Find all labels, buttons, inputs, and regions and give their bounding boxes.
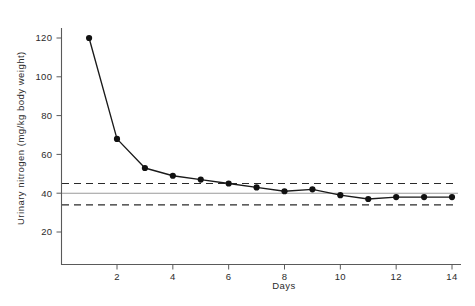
x-tick-label: 12 [390, 271, 401, 282]
chart-container: 20406080100120 2468101214 Urinary nitrog… [0, 0, 475, 306]
data-point [365, 196, 371, 202]
x-axis-ticks [117, 265, 452, 270]
series-markers [86, 35, 455, 202]
x-tick-label: 4 [170, 271, 176, 282]
y-axis-tick-labels: 20406080100120 [35, 32, 52, 237]
data-point [86, 35, 92, 41]
data-point [309, 186, 315, 192]
data-point [170, 173, 176, 179]
y-tick-label: 100 [35, 71, 52, 82]
x-tick-label: 10 [335, 271, 346, 282]
y-axis-ticks [57, 38, 62, 232]
data-point [393, 194, 399, 200]
data-point [337, 192, 343, 198]
x-tick-label: 6 [226, 271, 232, 282]
y-tick-label: 40 [41, 188, 52, 199]
data-point [253, 184, 259, 190]
data-point [421, 194, 427, 200]
data-point [226, 180, 232, 186]
series-line-urinary-nitrogen [89, 38, 452, 199]
y-tick-label: 80 [41, 110, 52, 121]
y-tick-label: 60 [41, 149, 52, 160]
y-tick-label: 120 [35, 32, 52, 43]
y-axis-title: Urinary nitrogen (mg/kg body weight) [15, 51, 26, 225]
data-series-group [86, 35, 455, 202]
data-point [114, 136, 120, 142]
data-point [449, 194, 455, 200]
reference-lines-group [62, 184, 458, 205]
y-tick-label: 20 [41, 226, 52, 237]
x-tick-label: 14 [446, 271, 457, 282]
axis-lines [62, 28, 462, 265]
data-point [198, 177, 204, 183]
axes-group [57, 28, 462, 270]
data-point [142, 165, 148, 171]
x-tick-label: 2 [114, 271, 120, 282]
line-chart-plot: 20406080100120 2468101214 Urinary nitrog… [0, 0, 475, 306]
data-point [281, 188, 287, 194]
x-axis-title: Days [272, 280, 296, 291]
